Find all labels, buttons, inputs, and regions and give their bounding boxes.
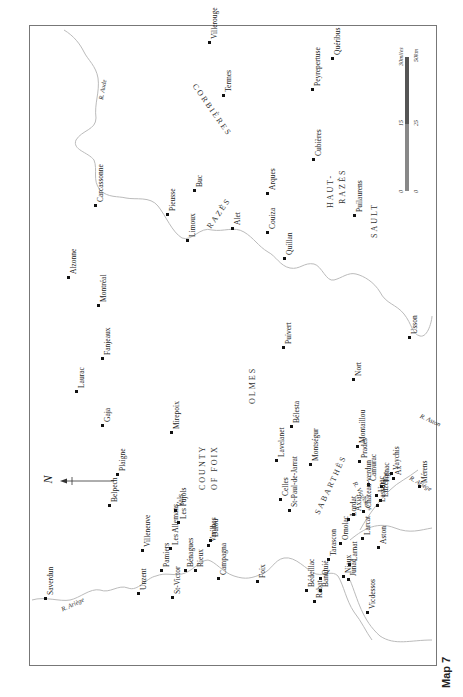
place-dot-icon	[366, 611, 369, 614]
place-label: Couiza	[269, 208, 277, 229]
place-dot-icon	[137, 592, 140, 595]
place-dot-icon	[101, 424, 104, 427]
place-label: Villerouge	[211, 7, 219, 39]
place-dot-icon	[283, 257, 286, 260]
place-label: Plaigne	[119, 449, 127, 472]
place-dot-icon	[361, 537, 364, 540]
place-dot-icon	[290, 425, 293, 428]
place-label: Nort	[355, 362, 363, 376]
place-dot-icon	[266, 192, 269, 195]
place-dot-icon	[97, 304, 100, 307]
north-symbol: N	[41, 475, 56, 483]
place-dot-icon	[408, 336, 411, 339]
place-dot-icon	[209, 539, 212, 542]
place-dot-icon	[160, 569, 163, 572]
place-dot-icon	[282, 346, 285, 349]
place-label: Puilaurens	[356, 180, 364, 212]
place-dot-icon	[356, 445, 359, 448]
place-dot-icon	[44, 597, 47, 600]
place-dot-icon	[313, 600, 316, 603]
scale-km-zero: 0	[413, 190, 419, 193]
scale-bar	[405, 57, 409, 191]
place-label: Celles	[282, 477, 290, 496]
place-label: Ax	[395, 466, 403, 475]
region-label: HAUT-	[326, 174, 335, 208]
place-dot-icon	[342, 575, 345, 578]
place-label: Lordat	[350, 496, 358, 516]
place-dot-icon	[288, 509, 291, 512]
place-dot-icon	[266, 231, 269, 234]
place-dot-icon	[279, 498, 282, 501]
place-label: Quillan	[286, 233, 294, 256]
place-label: Montségur	[312, 429, 320, 462]
place-dot-icon	[331, 57, 334, 60]
place-label: Villeneuve	[144, 515, 152, 547]
place-dot-icon	[353, 214, 356, 217]
place-dot-icon	[177, 521, 180, 524]
place-label: Campagna	[220, 543, 228, 575]
place-dot-icon	[94, 204, 97, 207]
place-label: Prades	[361, 438, 369, 458]
place-label: Bénagues	[187, 538, 195, 567]
place-label: Unzent	[140, 568, 148, 590]
region-label: RAZÈS	[338, 169, 347, 204]
place-dot-icon	[222, 94, 225, 97]
place-label: Bélesta	[293, 401, 301, 423]
region-label: SAULT	[370, 203, 379, 238]
place-dot-icon	[184, 569, 187, 572]
place-label: Carcassonne	[97, 164, 105, 202]
place-label: Rabat	[316, 581, 324, 599]
place-dot-icon	[339, 542, 342, 545]
place-dot-icon	[392, 477, 395, 480]
place-label: St-Paul-de-Jarrat	[291, 456, 299, 507]
place-label: Buc	[196, 175, 204, 187]
place-dot-icon	[256, 580, 259, 583]
place-label: Limoux	[189, 213, 197, 237]
place-label: Mirepoix	[173, 401, 181, 429]
map-caption: Map 7	[440, 657, 452, 688]
place-dot-icon	[358, 460, 361, 463]
place-label: Termes	[225, 70, 233, 92]
place-dot-icon	[305, 589, 308, 592]
place-dot-icon	[312, 158, 315, 161]
place-label: St-Victor	[174, 567, 182, 594]
place-dot-icon	[174, 509, 177, 512]
place-label: Alet	[234, 212, 242, 225]
place-dot-icon	[311, 88, 314, 91]
place-dot-icon	[169, 547, 172, 550]
place-label: Gaja	[104, 408, 112, 422]
place-label: Lavelanet	[278, 427, 286, 457]
place-dot-icon	[170, 431, 173, 434]
place-dot-icon	[275, 459, 278, 462]
place-dot-icon	[171, 596, 174, 599]
place-label: Foix	[259, 564, 267, 578]
place-dot-icon	[193, 189, 196, 192]
scale-miles-max: 30miles	[398, 47, 404, 66]
place-label: Lassur	[379, 482, 387, 502]
place-dot-icon	[67, 276, 70, 279]
region-label: COUNTY	[198, 445, 207, 490]
place-dot-icon	[186, 239, 189, 242]
place-label: Quéribus	[334, 28, 342, 56]
place-label: Vicdessos	[369, 579, 377, 609]
place-label: Rieux	[197, 549, 205, 567]
scale-miles-mid: 15	[398, 120, 404, 126]
north-arrow: N	[58, 474, 113, 484]
place-dot-icon	[166, 213, 169, 216]
place-dot-icon	[108, 504, 111, 507]
place-label: Junac	[350, 559, 358, 576]
place-dot-icon	[376, 504, 379, 507]
arrow-icon	[58, 474, 118, 488]
place-label: Cubières	[315, 129, 323, 156]
place-label: Pieusse	[169, 189, 177, 212]
place-dot-icon	[194, 569, 197, 572]
place-label: Alzonne	[70, 249, 78, 274]
place-label: Montréal	[100, 275, 108, 303]
place-dot-icon	[352, 378, 355, 381]
region-label: OF FOIX	[210, 445, 219, 490]
place-label: Dalou	[212, 519, 220, 537]
place-dot-icon	[207, 544, 210, 547]
place-label: Peyrepertuse	[314, 47, 322, 86]
region-label: OLMES	[248, 367, 257, 404]
place-label: Aston	[380, 526, 388, 544]
